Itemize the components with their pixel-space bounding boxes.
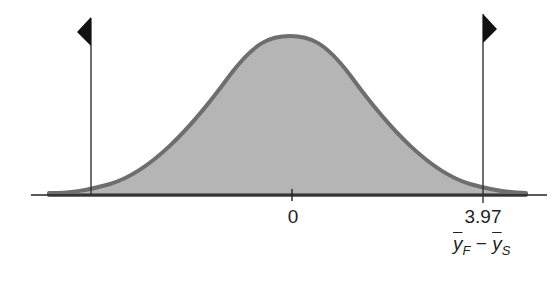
right-flag-icon xyxy=(483,14,497,43)
x-axis-label: yF − yS xyxy=(453,233,510,258)
normal-curve-area xyxy=(49,36,526,195)
subscript-s: S xyxy=(502,243,511,258)
tick-label-zero: 0 xyxy=(288,206,299,228)
minus-sign: − xyxy=(476,233,487,254)
subscript-f: F xyxy=(463,243,471,258)
left-flag-icon xyxy=(77,17,91,46)
ybar-s: y xyxy=(492,233,502,254)
tick-label-cutoff: 3.97 xyxy=(465,206,502,228)
ybar-f: y xyxy=(453,233,463,254)
